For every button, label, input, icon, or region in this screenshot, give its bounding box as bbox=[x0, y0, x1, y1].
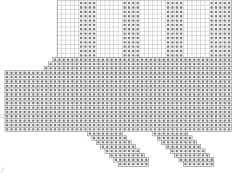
stitch-pattern-chart bbox=[0, 0, 238, 176]
row-marker: ╱ bbox=[1, 167, 4, 173]
row-marker: ○ bbox=[0, 112, 4, 118]
